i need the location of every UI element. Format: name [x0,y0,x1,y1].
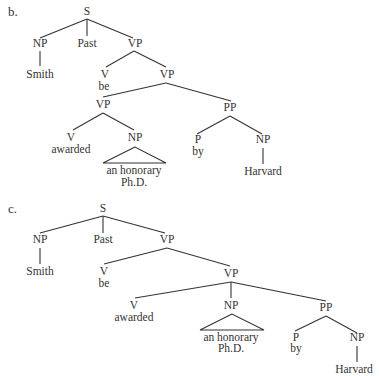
edge [87,19,133,38]
edge [197,116,230,134]
leaf-phd: Ph.D. [121,176,147,188]
node-past: Past [93,233,113,245]
node-pp: PP [224,101,237,113]
node-v: V [101,68,110,80]
node-vp: VP [160,68,175,80]
leaf-smith: Smith [26,68,54,80]
edge [40,19,87,38]
edge [40,216,103,233]
leaf-be: be [99,80,110,92]
edge [167,248,230,266]
node-np: NP [128,131,143,143]
leaf-awarded: awarded [115,311,154,323]
edge [295,316,326,331]
leaf-by: by [192,145,204,158]
leaf-smith: Smith [26,265,54,277]
edge [166,83,231,101]
node-np: NP [33,233,48,245]
edge [106,51,134,67]
node-pp: PP [320,301,333,313]
edge [103,113,134,130]
node-p: P [195,133,201,145]
node-s: S [84,5,90,17]
edge [73,113,103,130]
leaf-harvard: Harvard [244,165,282,177]
triangle [103,147,166,163]
edge [103,216,165,233]
triangle [200,314,264,330]
node-np: NP [224,299,239,311]
node-np: NP [256,133,271,145]
node-v: V [100,265,109,277]
leaf-harvard: Harvard [335,363,373,375]
node-past: Past [77,37,97,49]
node-v: V [130,299,139,311]
edge [103,83,166,97]
edge [135,282,231,298]
tree-c: c. S NP Past VP Smith V be VP V awarded … [8,201,373,375]
tree-label-b: b. [8,4,18,19]
node-vp: VP [224,267,239,279]
edge [231,282,326,301]
edge [134,51,166,67]
node-vp: VP [128,37,143,49]
syntax-trees: b. S NP Past VP Smith V be VP VP PP V aw… [0,0,379,376]
edge [104,248,167,264]
leaf-by: by [290,342,302,355]
node-v: V [67,131,76,143]
node-vp: VP [160,233,175,245]
node-np: NP [350,331,365,343]
tree-label-c: c. [8,201,17,216]
leaf-awarded: awarded [52,143,91,155]
leaf-be: be [99,277,110,289]
node-np: NP [33,37,48,49]
node-vp: VP [96,98,111,110]
tree-b: b. S NP Past VP Smith V be VP VP PP V aw… [8,4,282,188]
leaf-phd: Ph.D. [218,342,244,354]
edge [230,116,262,134]
node-s: S [100,202,106,214]
